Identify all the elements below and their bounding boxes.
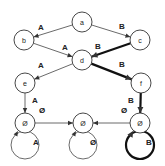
edge-label-e-sinkA: A [32, 96, 38, 105]
node-label: c [138, 37, 142, 44]
edge-label-sinkA-sinkA: A [33, 138, 39, 147]
nodes-layer: abcdefØØØ [14, 12, 151, 133]
node-b: b [14, 30, 34, 50]
arrowhead-e-sinkA [23, 108, 27, 113]
edge-label-d-f: B [119, 60, 125, 69]
arrowhead-c-d [91, 52, 98, 58]
arrowhead-a-c [125, 33, 130, 37]
arrowhead-b-d [67, 53, 72, 57]
node-label: Ø [137, 120, 143, 127]
node-label: e [23, 80, 27, 87]
node-e: e [15, 73, 35, 93]
arrowhead-a-b [34, 33, 39, 37]
node-label: f [140, 80, 142, 87]
arrowhead-f-sinkB [137, 107, 143, 113]
node-label: Ø [22, 120, 28, 127]
edge-label-d-e: A [38, 61, 44, 70]
edge-label-a-b: A [38, 23, 44, 32]
node-label: a [80, 19, 84, 26]
edge-label-sinkA-sinkMid: Ø [39, 106, 45, 115]
node-f: f [131, 73, 151, 93]
edge-d-f [91, 64, 131, 80]
edge-label-sinkMid-sinkMid: Ø [90, 138, 96, 147]
edge-label-f-sinkB: B [128, 96, 134, 105]
node-c: c [130, 30, 150, 50]
node-label: d [80, 57, 84, 64]
edge-label-a-c: B [119, 22, 125, 31]
node-d: d [72, 50, 92, 70]
state-graph: abcdefØØØ ABABABABØØAØB [0, 0, 165, 166]
edge-label-sinkB-sinkB: B [146, 138, 152, 147]
edge-label-sinkB-sinkMid: Ø [121, 106, 127, 115]
arrowhead-sinkB-sinkMid [93, 121, 98, 125]
node-sinkA: Ø [15, 113, 35, 133]
node-a: a [72, 12, 92, 32]
edge-label-b-d: A [62, 43, 68, 52]
node-sinkB: Ø [130, 113, 150, 133]
arrowhead-sinkA-sinkMid [68, 121, 73, 125]
node-label: b [22, 37, 26, 44]
node-sinkMid: Ø [73, 113, 93, 133]
node-label: Ø [80, 120, 86, 127]
edge-label-c-d: B [95, 42, 101, 51]
